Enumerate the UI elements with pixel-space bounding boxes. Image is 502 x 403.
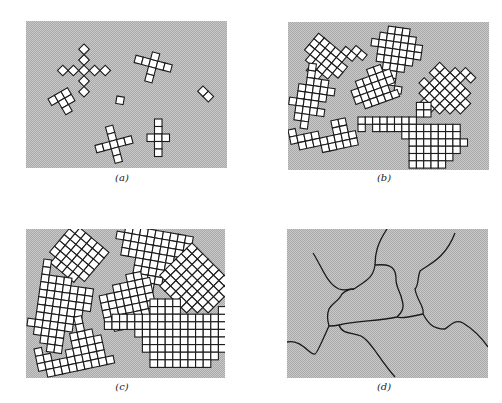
panel-d-drawing xyxy=(287,229,488,378)
unit-cell xyxy=(409,124,416,131)
unit-cell xyxy=(431,154,438,161)
panel-c-drawing xyxy=(26,229,225,378)
unit-cell xyxy=(188,345,196,353)
unit-cell xyxy=(385,76,394,85)
unit-cell xyxy=(158,352,166,360)
unit-cell xyxy=(416,154,423,161)
unit-cell xyxy=(155,142,163,150)
unit-cell xyxy=(124,136,133,145)
unit-cell xyxy=(155,149,163,157)
panel-b xyxy=(288,22,489,170)
unit-cell xyxy=(211,314,219,322)
panel-d xyxy=(287,229,488,378)
unit-cell xyxy=(165,329,173,337)
unit-cell xyxy=(380,117,387,124)
unit-cell xyxy=(165,314,173,322)
unit-cell xyxy=(65,323,74,332)
unit-cell xyxy=(211,329,219,337)
unit-cell xyxy=(196,337,204,345)
unit-cell xyxy=(173,329,181,337)
unit-cell xyxy=(416,102,423,109)
unit-cell xyxy=(431,161,438,168)
panel-c xyxy=(26,229,225,378)
unit-cell xyxy=(173,322,181,330)
unit-cell xyxy=(218,337,225,345)
unit-cell xyxy=(211,352,219,360)
unit-cell xyxy=(402,124,409,131)
unit-cell xyxy=(424,102,431,109)
unit-cell xyxy=(188,360,196,368)
unit-cell xyxy=(424,139,431,146)
unit-cell xyxy=(165,299,173,307)
unit-cell xyxy=(453,132,460,139)
unit-cell xyxy=(416,124,423,131)
unit-cell xyxy=(416,146,423,153)
unit-cell xyxy=(145,74,154,83)
panel-d-caption: (d) xyxy=(364,381,404,392)
unit-cell xyxy=(424,124,431,131)
unit-cell xyxy=(173,360,181,368)
unit-cell xyxy=(446,146,453,153)
unit-cell xyxy=(173,299,181,307)
unit-cell xyxy=(83,303,92,312)
unit-cell xyxy=(431,139,438,146)
unit-cell xyxy=(173,345,181,353)
unit-cell xyxy=(413,52,421,60)
unit-cell xyxy=(373,117,380,124)
unit-cell xyxy=(165,337,173,345)
unit-cell xyxy=(431,124,438,131)
unit-cell xyxy=(446,124,453,131)
panel-a-caption: (a) xyxy=(102,172,142,183)
unit-cell xyxy=(162,134,170,142)
unit-cell xyxy=(165,345,173,353)
unit-cell xyxy=(438,154,445,161)
unit-cell xyxy=(135,322,143,330)
unit-cell xyxy=(424,154,431,161)
unit-cell xyxy=(438,132,445,139)
unit-cell xyxy=(218,322,225,330)
unit-cell xyxy=(317,108,325,116)
unit-cell xyxy=(453,139,460,146)
unit-cell xyxy=(395,117,402,124)
unit-cell xyxy=(438,139,445,146)
unit-cell xyxy=(165,360,173,368)
unit-cell xyxy=(218,345,225,353)
unit-cell xyxy=(180,314,188,322)
unit-cell xyxy=(142,314,150,322)
unit-cell xyxy=(409,132,416,139)
unit-cell xyxy=(120,322,128,330)
unit-cell xyxy=(163,63,172,72)
unit-cell xyxy=(203,329,211,337)
unit-cell xyxy=(158,329,166,337)
unit-cell xyxy=(395,124,402,131)
unit-cell xyxy=(365,117,372,124)
unit-cell xyxy=(446,154,453,161)
unit-cell xyxy=(402,117,409,124)
unit-cell xyxy=(424,161,431,168)
unit-cell xyxy=(211,337,219,345)
unit-cell xyxy=(120,314,128,322)
unit-cell xyxy=(416,110,423,117)
unit-cell xyxy=(402,132,409,139)
unit-cell xyxy=(405,58,413,66)
unit-cell xyxy=(165,352,173,360)
unit-cell xyxy=(438,161,445,168)
unit-cell xyxy=(155,134,163,142)
unit-cell xyxy=(196,345,204,353)
unit-cell xyxy=(150,337,158,345)
unit-cell xyxy=(203,345,211,353)
unit-cell xyxy=(116,96,125,105)
unit-cell xyxy=(127,322,135,330)
unit-cell xyxy=(180,329,188,337)
unit-cell xyxy=(203,314,211,322)
unit-cell xyxy=(150,307,158,315)
unit-cell xyxy=(173,314,181,322)
unit-cell xyxy=(196,352,204,360)
unit-cell xyxy=(416,139,423,146)
unit-cell xyxy=(380,124,387,131)
unit-cell xyxy=(155,127,163,135)
panel-a-drawing xyxy=(26,21,227,168)
unit-cell xyxy=(142,337,150,345)
unit-cell xyxy=(135,329,143,337)
unit-cell xyxy=(147,134,155,142)
